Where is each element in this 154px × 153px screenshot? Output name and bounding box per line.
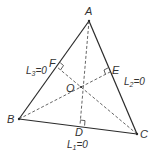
l3-eq: =0 xyxy=(35,65,47,76)
right-angle-f-icon xyxy=(60,63,63,70)
label-l2: L2=0 xyxy=(124,76,145,88)
right-angle-e-icon xyxy=(104,68,108,75)
orthocenter-diagram: A B C D E F O L3=0 L2=0 L1=0 xyxy=(0,0,154,153)
triangle-sides xyxy=(19,21,137,134)
label-c: C xyxy=(140,128,148,140)
label-o: O xyxy=(66,82,75,94)
label-d: D xyxy=(75,126,83,138)
dot-a xyxy=(88,20,90,22)
altitude-ad xyxy=(80,21,89,125)
l1-eq: =0 xyxy=(76,139,88,150)
label-l3: L3=0 xyxy=(26,65,47,77)
altitudes xyxy=(19,21,137,134)
altitude-be xyxy=(19,72,110,119)
dot-b xyxy=(18,118,20,120)
label-a: A xyxy=(84,5,92,17)
dot-o xyxy=(80,86,82,88)
label-e: E xyxy=(112,64,120,76)
l2-eq: =0 xyxy=(133,76,145,87)
dot-c xyxy=(136,133,138,135)
label-l1: L1=0 xyxy=(67,139,88,151)
label-b: B xyxy=(7,113,14,125)
side-ac xyxy=(89,21,137,134)
